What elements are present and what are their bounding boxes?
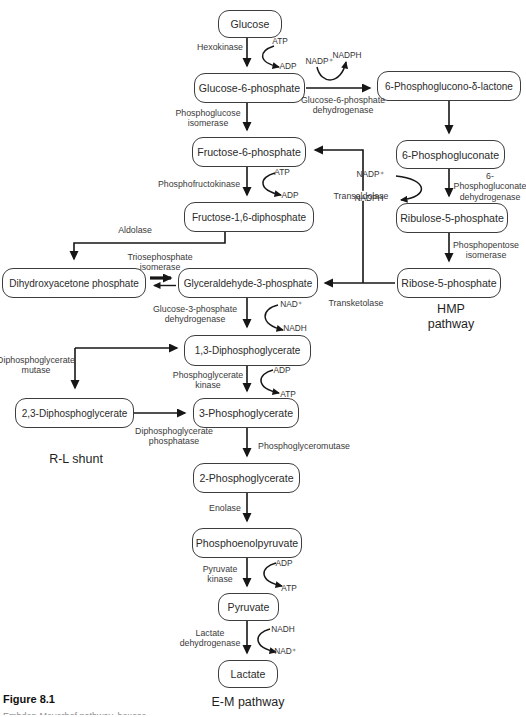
cofactor-nadh-ldh: NADH (271, 625, 295, 635)
cofactor-nad-ldh: NAD⁺ (274, 647, 296, 657)
node-6-phosphoglucono-lactone: 6-Phosphoglucono-δ-lactone (377, 71, 521, 101)
cofactor-adp-pgk: ADP (273, 366, 290, 376)
enzyme-pyruvate-kinase: Pyruvate kinase (203, 564, 238, 585)
cofactor-adp-hexokinase: ADP (279, 62, 296, 72)
enzyme-phosphopentose-isomerase: Phosphopentose isomerase (453, 240, 519, 261)
cofactor-nadh-gapdh: NADH (283, 324, 307, 334)
node-phosphoenolpyruvate: Phosphoenolpyruvate (192, 528, 302, 558)
node-fructose-16-diphosphate: Fructose-1,6-diphosphate (184, 202, 314, 232)
cofactor-atp-pk: ATP (281, 584, 297, 594)
figure-caption-clipped: Embden-Meyerhof pathway, hexose monophos… (3, 711, 203, 715)
cofactor-arc-6pg-dehydrogenase (396, 176, 421, 200)
node-dihydroxyacetone-phosphate: Dihydroxyacetone phosphate (2, 268, 146, 298)
cofactor-atp-pfk: ATP (274, 168, 290, 178)
cofactor-nad-gapdh: NAD⁺ (280, 300, 302, 310)
enzyme-hexokinase: Hexokinase (197, 42, 243, 52)
node-23-diphosphoglycerate: 2,3-Diphosphoglycerate (15, 398, 134, 428)
enzyme-phosphoglyceromutase: Phosphoglyceromutase (258, 441, 350, 451)
node-13-diphosphoglycerate: 1,3-Diphosphoglycerate (184, 335, 311, 366)
cofactor-nadp-6pgd: NADP⁺ (356, 170, 383, 180)
cofactor-arc-hexokinase (263, 46, 279, 67)
cofactor-adp-pfk: ADP (281, 191, 298, 201)
node-3-phosphoglycerate: 3-Phosphoglycerate (193, 398, 299, 428)
label-rl-shunt: R-L shunt (49, 452, 103, 467)
enzyme-glucose-6-phosphate-dehydrogenase: Glucose-6-phosphate dehydrogenase (301, 95, 385, 116)
cofactor-nadph-g6pd: NADPH (332, 51, 361, 61)
cofactor-nadph-6pgd: NADPH (354, 194, 383, 204)
cofactor-nadp-g6pd: NADP⁺ (305, 57, 332, 67)
enzyme-phosphoglycerate-kinase: Phosphoglycerate kinase (173, 370, 243, 391)
cofactor-atp-hexokinase: ATP (272, 37, 288, 47)
enzyme-diphosphoglycerate-mutase: Diphosphoglycerate mutase (0, 355, 75, 376)
node-glyceraldehyde-3-phosphate: Glyceraldehyde-3-phosphate (178, 268, 318, 298)
node-2-phosphoglycerate: 2-Phosphoglycerate (193, 463, 300, 493)
enzyme-triosephosphate-isomerase: Triosephosphate isomerase (127, 252, 192, 273)
figure-number: Figure 8.1 (3, 693, 55, 705)
enzyme-aldolase: Aldolase (118, 225, 152, 235)
node-6-phosphogluconate: 6-Phosphogluconate (396, 140, 505, 169)
node-glucose-6-phosphate: Glucose-6-phosphate (194, 73, 305, 103)
node-pyruvate: Pyruvate (218, 593, 279, 621)
figure-canvas: Glucose Glucose-6-phosphate 6-Phosphoglu… (0, 0, 526, 717)
cofactor-atp-pgk: ATP (280, 390, 296, 400)
enzyme-transketolase: Transketolase (329, 298, 384, 308)
enzyme-glucose-3-phosphate-dehydrogenase: Glucose-3-phosphate dehydrogenase (153, 304, 237, 325)
enzyme-phosphoglucose-isomerase: Phosphoglucose isomerase (175, 108, 240, 129)
enzyme-phosphofructokinase: Phosphofructokinase (158, 179, 240, 189)
node-ribulose-5-phosphate: Ribulose-5-phosphate (396, 203, 508, 233)
cofactor-adp-pk: ADP (275, 559, 292, 569)
label-em-pathway: E-M pathway (212, 695, 285, 710)
node-lactate: Lactate (218, 660, 278, 688)
enzyme-6-phosphogluconate-dehydrogenase: 6-Phosphogluconate dehydrogenase (454, 171, 526, 202)
label-hmp-pathway: HMP pathway (414, 302, 489, 332)
node-fructose-6-phosphate: Fructose-6-phosphate (192, 137, 306, 167)
node-glucose: Glucose (218, 10, 282, 38)
enzyme-diphosphoglycerate-phosphatase: Diphosphoglycerate phosphatase (135, 426, 213, 447)
enzyme-enolase: Enolase (209, 503, 241, 513)
node-ribose-5-phosphate: Ribose-5-phosphate (397, 268, 501, 298)
enzyme-lactate-dehydrogenase: Lactate dehydrogenase (180, 628, 241, 649)
